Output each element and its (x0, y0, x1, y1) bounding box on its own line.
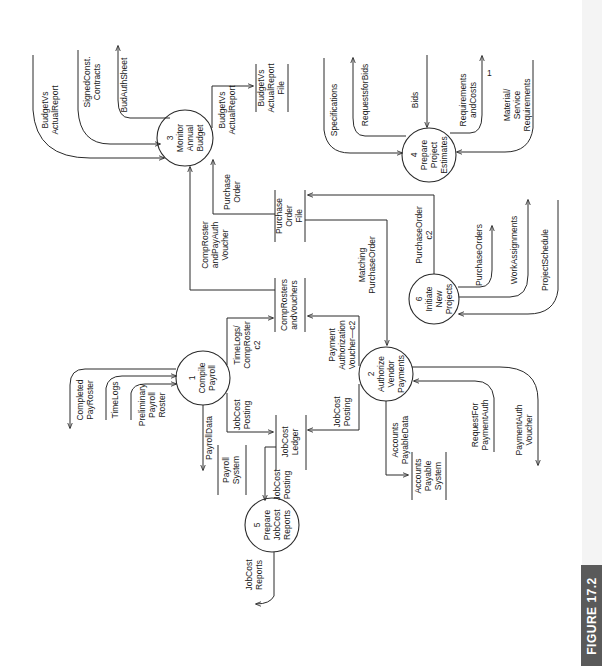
svg-text:Payroll: Payroll (221, 457, 231, 483)
data-store-purchase-order-file[interactable]: Purchase Order File (274, 190, 305, 242)
svg-text:TimeLogs/: TimeLogs/ (232, 325, 242, 365)
svg-text:Roster: Roster (157, 392, 167, 417)
process-label-line: Budget (195, 124, 205, 152)
svg-text:BudgetVs: BudgetVs (256, 70, 266, 107)
svg-text:Requirements: Requirements (522, 79, 532, 132)
svg-text:Accounts: Accounts (413, 459, 423, 494)
svg-text:System: System (433, 462, 443, 490)
svg-text:c2: c2 (252, 340, 262, 349)
svg-text:Purchase: Purchase (274, 198, 284, 234)
flow-label: JobCost Posting (232, 399, 252, 431)
svg-text:ActualReport: ActualReport (266, 63, 276, 113)
svg-text:2: 2 (366, 371, 376, 376)
svg-text:Payable: Payable (423, 460, 433, 491)
svg-text:PaymentAuth: PaymentAuth (514, 404, 524, 455)
svg-text:TimeLogs: TimeLogs (110, 381, 120, 418)
svg-text:File: File (276, 81, 286, 95)
svg-text:JobCost: JobCost (232, 399, 242, 431)
flow-label: Accounts PayableData (390, 415, 410, 464)
svg-text:Projects: Projects (444, 284, 454, 315)
svg-text:Contracts: Contracts (92, 64, 102, 100)
flow-label: PurchaseOrders (474, 224, 484, 286)
svg-text:Authorize: Authorize (376, 356, 386, 392)
svg-text:CompRoster: CompRoster (200, 221, 210, 269)
tick-mark: 1 (487, 68, 492, 78)
svg-text:1: 1 (187, 375, 197, 380)
process-6-initiate-new-projects[interactable]: 6 Initiate New Projects (409, 274, 459, 324)
svg-text:RequestFor: RequestFor (470, 403, 480, 448)
svg-text:Voucher: Voucher (524, 414, 534, 445)
data-store-budget-vs-actual-file[interactable]: BudgetVs ActualReport File (256, 63, 288, 113)
svg-text:andPayAuth: andPayAuth (210, 222, 220, 269)
flow-label: JobCost Reports (244, 559, 264, 591)
data-store-comp-rosters-vouchers[interactable]: CompRosters andVouchers (275, 278, 305, 332)
svg-text:Voucher: Voucher (220, 229, 230, 260)
svg-text:JobCost: JobCost (272, 469, 282, 501)
svg-text:PurchaseOrder: PurchaseOrder (367, 236, 377, 294)
process-2-authorize-vendor-payments[interactable]: 2 Authorize Vendor Payments (359, 347, 413, 401)
svg-text:Payments: Payments (396, 355, 406, 393)
svg-text:SignedConst.: SignedConst. (82, 56, 92, 107)
svg-text:File: File (294, 209, 304, 223)
svg-text:andCosts: andCosts (468, 82, 478, 118)
process-label-line: Annual (185, 125, 195, 152)
svg-text:JobCost: JobCost (244, 559, 254, 591)
flow-label: Specifications (329, 84, 339, 136)
figure-label-text: FIGURE 17.2 (585, 577, 599, 655)
flow-label: WorkAssignments (509, 216, 519, 284)
svg-text:Payment: Payment (327, 328, 337, 362)
figure-label: FIGURE 17.2 (581, 565, 602, 666)
svg-text:ActualReport: ActualReport (50, 85, 60, 135)
flow-label: Preliminary Payroll Roster (137, 383, 167, 426)
process-number: 3 (165, 135, 175, 140)
flow-label: CompRoster andPayAuth Voucher (200, 221, 230, 269)
svg-text:Order: Order (284, 205, 294, 227)
svg-text:4: 4 (409, 152, 419, 157)
data-store-accounts-payable-system[interactable]: Accounts Payable System (412, 452, 446, 500)
svg-text:Posting: Posting (282, 471, 292, 500)
svg-text:Reports: Reports (254, 560, 264, 590)
svg-text:JobCost: JobCost (280, 426, 290, 458)
svg-text:BudgetVs: BudgetVs (217, 92, 227, 129)
svg-text:Payroll: Payroll (207, 365, 217, 391)
svg-text:BudgetVs: BudgetVs (40, 92, 50, 129)
flow-label: Material/ Service Requirements (502, 79, 532, 132)
flow-label: ProjectSchedule (540, 229, 550, 291)
svg-text:c2: c2 (424, 230, 434, 239)
process-4-prepare-project-estimates[interactable]: 4 Prepare Project Estimates (402, 128, 456, 182)
svg-text:Preliminary: Preliminary (137, 383, 147, 426)
flow-label: JobCost Posting (272, 469, 292, 501)
svg-text:New: New (434, 290, 444, 308)
svg-text:Prepare: Prepare (262, 510, 272, 541)
data-store-jobcost-ledger[interactable]: JobCost Ledger (276, 415, 306, 470)
svg-text:Estimates: Estimates (439, 136, 449, 173)
svg-text:Voucher—c2: Voucher—c2 (347, 320, 357, 369)
flow-label: BudgetVs ActualReport (217, 85, 237, 135)
svg-text:Project: Project (429, 141, 439, 168)
flow-label: Bids (410, 92, 420, 109)
process-5-prepare-jobcost-reports[interactable]: 5 Prepare JobCost Reports (245, 498, 299, 552)
flow-label: PurchaseOrder c2 (414, 206, 434, 264)
flow-label: Requirements andCosts (458, 74, 478, 127)
flow-label: RequestFor PaymentAuth (470, 399, 490, 450)
svg-text:JobCost: JobCost (332, 396, 342, 428)
flow-label: TimeLogs/ CompRoster c2 (232, 321, 262, 369)
svg-text:Completed: Completed (75, 379, 85, 420)
svg-text:Material/: Material/ (502, 88, 512, 121)
svg-text:andVouchers: andVouchers (289, 280, 299, 330)
process-1-compile-payroll[interactable]: 1 Compile Payroll (176, 351, 230, 405)
svg-text:Reports: Reports (282, 510, 292, 540)
svg-text:PaymentAuth: PaymentAuth (480, 399, 490, 450)
flow-label: SignedConst. Contracts (82, 56, 102, 107)
svg-text:Requirements: Requirements (458, 74, 468, 127)
svg-text:Matching: Matching (357, 247, 367, 282)
data-store-payroll-system[interactable]: Payroll System (218, 445, 246, 495)
svg-text:Posting: Posting (342, 398, 352, 427)
flow-label: RequestsforBids (360, 64, 370, 126)
svg-text:RequestsforBids: RequestsforBids (360, 64, 370, 126)
flow-label: Completed PayRoster (75, 379, 95, 420)
svg-text:PayrollData: PayrollData (204, 416, 214, 460)
flow-label: Matching PurchaseOrder (357, 236, 377, 294)
svg-text:Vendor: Vendor (386, 360, 396, 387)
svg-text:CompRoster: CompRoster (242, 321, 252, 369)
